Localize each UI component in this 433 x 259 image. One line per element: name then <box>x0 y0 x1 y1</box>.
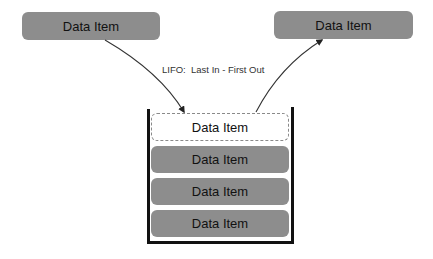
stack-item: Data Item <box>151 178 289 205</box>
stack-item-label: Data Item <box>192 216 248 231</box>
stack-item-label: Data Item <box>192 184 248 199</box>
stack-item-label: Data Item <box>192 152 248 167</box>
stack-top-slot-label: Data Item <box>192 120 248 135</box>
stack-top-slot: Data Item <box>151 113 289 141</box>
stack-left-wall <box>147 109 150 244</box>
stack-item: Data Item <box>151 146 289 173</box>
push-arrow-icon <box>105 40 184 112</box>
stack-right-wall <box>291 107 294 244</box>
pop-arrow-icon <box>256 40 322 112</box>
stack-bottom <box>147 241 294 244</box>
stack-item: Data Item <box>151 210 289 237</box>
